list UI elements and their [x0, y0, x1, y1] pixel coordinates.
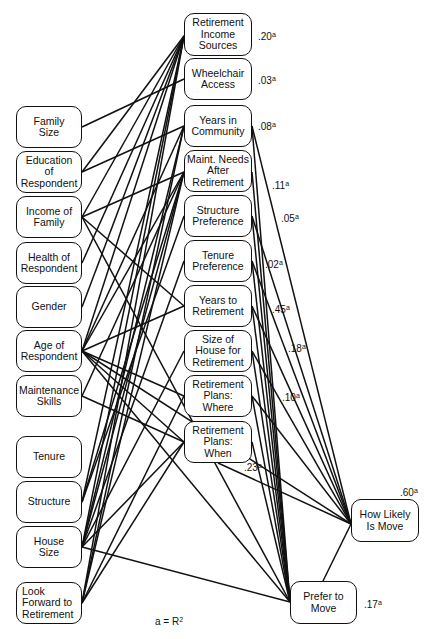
node-label: Structure — [28, 496, 71, 508]
node-maint-skills: Maintenance Skills — [16, 375, 82, 417]
node-label: Retirement Income Sources — [192, 17, 243, 52]
node-plans-where: Retirement Plans: Where — [184, 375, 252, 417]
r2-label-plans-where: .10a — [282, 393, 300, 403]
node-label: Tenure — [33, 451, 65, 463]
node-gender: Gender — [16, 286, 82, 328]
node-health: Health of Respondent — [16, 242, 82, 284]
node-ret-income: Retirement Income Sources — [184, 13, 252, 56]
path-edge — [252, 351, 351, 524]
path-edge — [82, 36, 184, 547]
node-label: Health of Respondent — [21, 252, 78, 275]
node-tenure-pref: Tenure Preference — [184, 240, 252, 282]
path-edge — [82, 36, 184, 603]
node-label: Education of Respondent — [21, 155, 78, 190]
node-label: Age of Respondent — [21, 340, 78, 363]
r2-value: .23 — [244, 462, 258, 473]
node-tenure: Tenure — [16, 436, 82, 478]
path-edge — [252, 306, 290, 602]
node-maint-needs: Maint. Needs After Retirement — [184, 150, 252, 192]
node-label: Look Forward to Retirement — [22, 586, 73, 621]
node-house-size: House Size — [16, 526, 82, 568]
r2-value: .03 — [258, 75, 272, 86]
r2-value: .60 — [400, 487, 414, 498]
path-edge — [252, 126, 351, 524]
r2-superscript: a — [272, 121, 276, 128]
node-label: Maint. Needs After Retirement — [187, 154, 249, 189]
node-label: Years to Retirement — [192, 295, 243, 318]
r2-superscript: a — [272, 31, 276, 38]
node-income: Income of Family — [16, 196, 82, 238]
r2-value: .02 — [265, 259, 279, 270]
node-label: Maintenance Skills — [19, 385, 79, 408]
node-label: Prefer to Move — [303, 591, 343, 614]
path-edge — [82, 396, 184, 603]
r2-superscript: a — [296, 392, 300, 399]
r2-superscript: a — [279, 259, 283, 266]
r2-label-wheelchair: .03a — [258, 76, 276, 86]
node-structure: Structure — [16, 481, 82, 523]
node-struct-pref: Structure Preference — [184, 195, 252, 237]
r2-value: .20 — [258, 31, 272, 42]
r2-superscript: a — [258, 462, 262, 469]
r2-superscript: a — [285, 180, 289, 187]
r2-label-maint-needs: .11a — [272, 181, 289, 191]
r2-label-tenure-pref: .02a — [265, 260, 283, 270]
footnote-text: a = R — [155, 616, 179, 627]
node-education: Education of Respondent — [16, 151, 82, 193]
r2-superscript: a — [414, 487, 418, 494]
r2-label-how-likely: .60a — [400, 488, 418, 498]
r2-label-size-house-ret: .18a — [288, 344, 306, 354]
node-label: Retirement Plans: When — [192, 425, 243, 460]
node-label: Size of House for Retirement — [192, 334, 243, 369]
path-edge — [82, 442, 184, 603]
r2-label-plans-when: .23a — [244, 463, 262, 473]
node-label: Wheelchair Access — [192, 68, 245, 91]
node-look-forward: Look Forward to Retirement — [16, 582, 82, 624]
node-family-size: Family Size — [16, 106, 82, 148]
node-label: How Likely Is Move — [360, 509, 411, 532]
r2-superscript: a — [302, 343, 306, 350]
path-edge — [82, 547, 290, 602]
node-label: Structure Preference — [192, 205, 243, 228]
node-size-house-ret: Size of House for Retirement — [184, 330, 252, 372]
path-diagram: Family SizeEducation of RespondentIncome… — [0, 0, 433, 639]
node-how-likely: How Likely Is Move — [351, 499, 419, 542]
node-wheelchair: Wheelchair Access — [184, 58, 252, 100]
node-years-comm: Years in Community — [184, 105, 252, 147]
path-edge — [82, 36, 184, 502]
node-label: Gender — [31, 301, 66, 313]
node-label: House Size — [34, 536, 64, 559]
node-years-ret: Years to Retirement — [184, 285, 252, 327]
node-prefer-move: Prefer to Move — [290, 581, 357, 624]
r2-label-years-comm: .08a — [258, 122, 276, 132]
r2-label-prefer-move: .17a — [364, 600, 382, 610]
r2-value: .11 — [272, 180, 285, 191]
r2-superscript: a — [295, 213, 299, 220]
r2-label-years-ret: .45a — [272, 305, 290, 315]
r2-value: .18 — [288, 343, 302, 354]
r2-label-ret-income: .20a — [258, 32, 276, 42]
r2-value: .45 — [272, 304, 286, 315]
node-label: Retirement Plans: Where — [192, 379, 243, 414]
r2-value: .05 — [281, 213, 295, 224]
r2-superscript: a — [286, 304, 290, 311]
r2-value: .10 — [282, 392, 296, 403]
r2-value: .08 — [258, 121, 272, 132]
r2-superscript: a — [272, 75, 276, 82]
r2-label-struct-pref: .05a — [281, 214, 299, 224]
node-label: Income of Family — [26, 206, 72, 229]
footnote-superscript: 2 — [179, 616, 183, 623]
path-edge — [82, 172, 184, 603]
r2-footnote: a = R2 — [155, 616, 183, 627]
path-edge — [323, 524, 351, 581]
node-age: Age of Respondent — [16, 330, 82, 372]
node-label: Family Size — [34, 116, 65, 139]
r2-superscript: a — [378, 599, 382, 606]
node-label: Years in Community — [191, 115, 244, 138]
node-plans-when: Retirement Plans: When — [184, 421, 252, 463]
r2-value: .17 — [364, 599, 378, 610]
node-label: Tenure Preference — [192, 250, 243, 273]
